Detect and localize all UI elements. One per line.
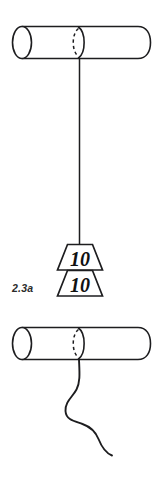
weight-lower-label: 10 — [70, 274, 90, 296]
bottom-rod-body — [22, 328, 151, 360]
bottom-rod — [13, 328, 151, 360]
slack-string — [65, 360, 112, 456]
weight-lower: 10 — [58, 271, 103, 297]
top-rod-left-cap — [13, 27, 32, 59]
top-rod — [13, 27, 151, 59]
weight-upper: 10 — [58, 245, 103, 271]
figure-caption: 2.3a — [11, 282, 33, 294]
figure-canvas: 10 10 2.3a — [0, 0, 161, 492]
weight-upper-label: 10 — [70, 248, 90, 270]
figure-root: 10 10 2.3a — [0, 0, 161, 492]
top-rod-body — [22, 27, 151, 59]
bottom-rod-left-cap — [13, 328, 32, 360]
